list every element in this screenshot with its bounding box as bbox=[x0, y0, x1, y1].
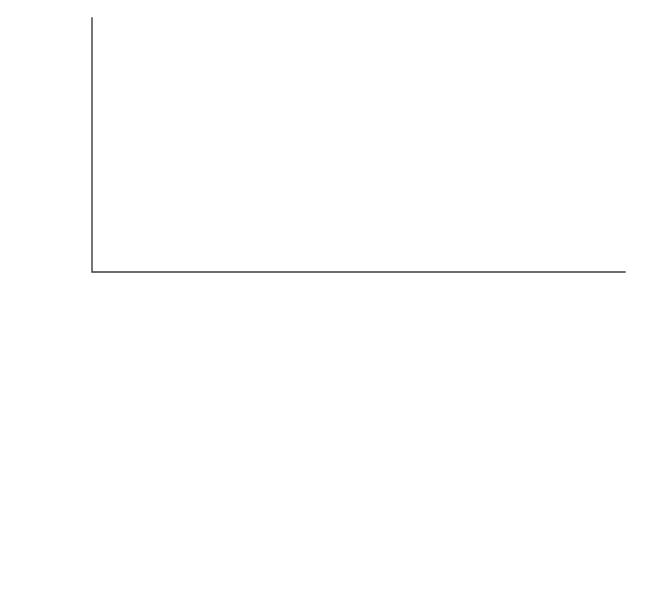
solar-structure-figure bbox=[0, 0, 646, 596]
axis-spines bbox=[92, 18, 625, 272]
chart-canvas bbox=[0, 0, 646, 596]
temperature-plot bbox=[92, 18, 625, 272]
